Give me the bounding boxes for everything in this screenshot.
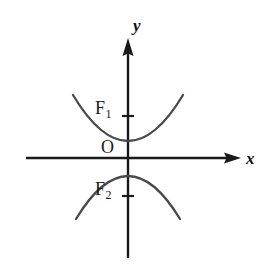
focus-2-label: F2 [95,180,112,201]
focus-2-base: F [95,179,105,199]
focus-1-label: F1 [95,99,112,120]
figure-canvas [0,0,266,275]
x-axis-label: x [246,150,255,167]
focus-1-base: F [95,98,105,118]
y-axis-arrowhead [123,38,134,56]
x-axis-arrowhead [224,153,241,164]
focus-2-subscript: 2 [105,188,112,202]
focus-1-subscript: 1 [105,107,112,121]
coordinate-plane-figure: y x O F1 F2 [0,0,266,275]
y-axis-label: y [133,17,141,34]
origin-label: O [101,138,114,156]
